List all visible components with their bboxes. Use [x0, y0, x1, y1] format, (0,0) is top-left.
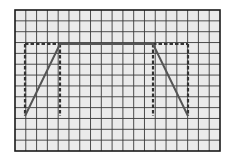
grid-background: [15, 10, 220, 151]
trapezoid-grid-diagram: [0, 0, 230, 160]
